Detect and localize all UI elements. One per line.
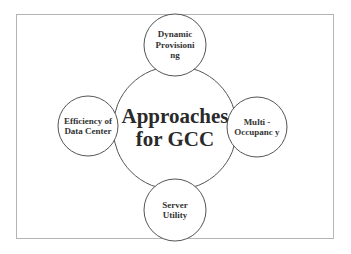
node-label-right: Multi - Occupanc y [233, 106, 281, 148]
node-label-left-text: Efficiency of Data Center [62, 116, 114, 137]
node-label-bottom: Server Utility [152, 193, 198, 227]
node-label-bottom-text: Server Utility [152, 200, 198, 221]
node-label-left: Efficiency of Data Center [62, 105, 114, 147]
center-label: Approaches for GCC [118, 96, 232, 160]
node-label-top: Dynamic Provisioni ng [150, 24, 200, 66]
center-label-text: Approaches for GCC [118, 105, 232, 151]
node-label-top-text: Dynamic Provisioni ng [150, 29, 200, 60]
node-label-right-text: Multi - Occupanc y [233, 117, 281, 138]
